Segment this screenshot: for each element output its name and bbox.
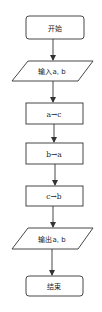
node-end: 结束 (26, 276, 83, 296)
node-step3: c→b (26, 186, 83, 206)
node-start-label: 开始 (48, 24, 62, 33)
node-input-label: 输入a, b (38, 67, 66, 76)
flowchart: 开始 输入a, b a→c b→a c→b 输出a, b 结束 (0, 0, 102, 312)
node-output-label: 输出a, b (38, 235, 66, 244)
node-end-label: 结束 (47, 282, 61, 291)
node-step2: b→a (26, 143, 83, 164)
node-step1: a→c (26, 103, 83, 124)
node-step1-label: a→c (47, 110, 62, 119)
node-start: 开始 (26, 16, 84, 39)
node-input: 输入a, b (12, 61, 93, 81)
node-output: 输出a, b (12, 228, 93, 249)
node-step2-label: b→a (46, 150, 62, 159)
node-step3-label: c→b (46, 192, 61, 201)
